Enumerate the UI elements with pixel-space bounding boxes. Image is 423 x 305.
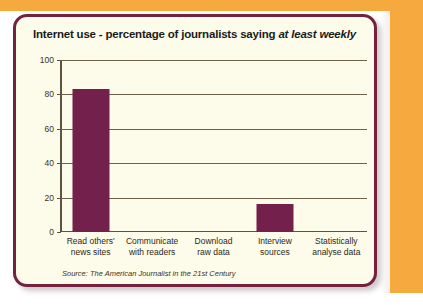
x-axis-label: Statisticallyanalyse data <box>299 236 373 258</box>
chart-title-emphasis: at least weekly <box>278 28 356 40</box>
bar-slot <box>244 60 305 232</box>
decorative-right-band <box>390 0 423 293</box>
x-axis-label-line: Statistically <box>299 236 373 247</box>
chart-card: Internet use - percentage of journalists… <box>13 14 377 287</box>
y-tick-label: 0 <box>24 227 54 237</box>
chart-title: Internet use - percentage of journalists… <box>33 28 356 40</box>
x-axis-labels: Read others'news sitesCommunicatewith re… <box>60 236 367 266</box>
decorative-right-fade <box>380 11 390 293</box>
x-axis-label-line: analyse data <box>299 247 373 258</box>
bar-slot <box>306 60 367 232</box>
y-tick-label: 100 <box>24 55 54 65</box>
chart-page: Internet use - percentage of journalists… <box>0 0 423 305</box>
y-tick-label: 80 <box>24 89 54 99</box>
y-tick-label: 60 <box>24 124 54 134</box>
bar[interactable] <box>72 89 109 232</box>
bar-slot <box>121 60 182 232</box>
y-tick-label: 20 <box>24 193 54 203</box>
y-tick-label: 40 <box>24 158 54 168</box>
plot-area: 020406080100 <box>60 60 367 232</box>
source-note: Source: The American Journalist in the 2… <box>62 269 236 278</box>
bar-slot <box>183 60 244 232</box>
y-tick-mark <box>57 232 61 233</box>
bars-group <box>60 60 367 232</box>
bar-slot <box>60 60 121 232</box>
chart-title-text: Internet use - percentage of journalists… <box>33 28 278 40</box>
decorative-top-band <box>0 0 423 11</box>
bar[interactable] <box>256 204 293 232</box>
